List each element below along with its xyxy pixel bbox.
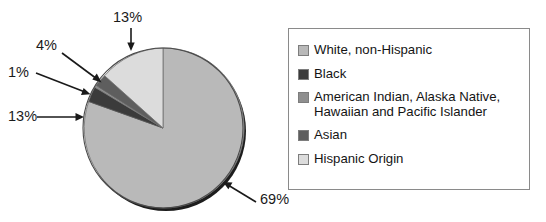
pie-chart-figure: 13% 4% 1% 13% 69% — [0, 0, 273, 222]
legend-label-black: Black — [314, 67, 346, 82]
legend-item-black: Black — [298, 67, 523, 82]
legend-item-american-indian: American Indian, Alaska Native, Hawaiian… — [298, 90, 523, 119]
legend-swatch-black — [298, 69, 309, 80]
pie-chart-svg — [0, 0, 273, 222]
legend-item-asian: Asian — [298, 128, 523, 143]
legend-list: White, non-Hispanic Black American India… — [298, 43, 523, 166]
legend: White, non-Hispanic Black American India… — [288, 28, 530, 190]
legend-label-hispanic-origin: Hispanic Origin — [314, 152, 403, 167]
callout-label-asian: 4% — [36, 38, 57, 53]
callout-arrow-hispanic-origin — [127, 28, 134, 51]
legend-label-asian: Asian — [314, 128, 347, 143]
callout-arrow-white-non-hispanic — [223, 182, 256, 202]
callout-label-american-indian: 1% — [8, 65, 29, 80]
callout-label-black: 13% — [8, 109, 37, 124]
callout-arrow-asian — [62, 53, 102, 83]
legend-swatch-hispanic-origin — [298, 154, 309, 165]
legend-swatch-asian — [298, 130, 309, 141]
pie-chart-screenshot: 13% 4% 1% 13% 69% White, non-Hispanic Bl… — [0, 0, 546, 222]
legend-label-white-non-hispanic: White, non-Hispanic — [314, 43, 432, 58]
callout-label-hispanic-origin: 13% — [113, 10, 142, 25]
callout-arrow-black — [37, 113, 84, 121]
legend-swatch-american-indian — [298, 92, 309, 103]
callout-label-white-non-hispanic: 69% — [260, 192, 289, 207]
legend-item-white-non-hispanic: White, non-Hispanic — [298, 43, 523, 58]
legend-swatch-white-non-hispanic — [298, 45, 309, 56]
callout-arrow-american-indian — [36, 73, 91, 95]
legend-item-hispanic-origin: Hispanic Origin — [298, 152, 523, 167]
legend-label-american-indian: American Indian, Alaska Native, Hawaiian… — [314, 90, 500, 119]
